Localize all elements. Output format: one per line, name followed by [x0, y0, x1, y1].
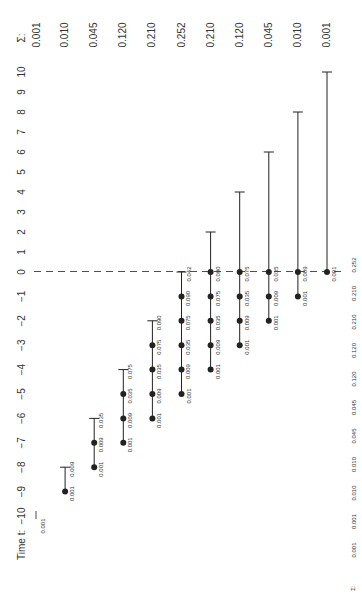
column-dot [179, 318, 185, 324]
probability-label: 0.001 [186, 388, 192, 404]
column-dot [266, 269, 272, 275]
sigma-top-value: 0.210 [146, 22, 157, 47]
column-dot [91, 464, 97, 470]
probability-label: 0.035 [186, 339, 192, 355]
column-dot [149, 391, 155, 397]
column-dot [266, 318, 272, 324]
probability-label: 0.035 [273, 266, 279, 282]
sigma-top-value: 0.252 [176, 22, 187, 47]
column-dot [179, 391, 185, 397]
sigma-bottom-value: 0.120 [351, 342, 357, 358]
probability-label: 0.035 [215, 315, 221, 331]
probability-label: 0.075 [215, 290, 221, 306]
probability-label: 0.001 [302, 290, 308, 306]
column-dot [237, 269, 243, 275]
time-axis-label: Time t: [16, 530, 27, 560]
probability-label: 0.001 [156, 412, 162, 428]
time-tick-label: −1 [16, 290, 27, 302]
time-tick-label: −8 [16, 461, 27, 473]
sigma-bottom-value: 0.001 [351, 513, 357, 529]
column-dot [208, 293, 214, 299]
time-tick-label: 4 [16, 189, 27, 195]
column-dot [295, 293, 301, 299]
probability-label: 0.075 [156, 339, 162, 355]
probability-label: 0.001 [69, 485, 75, 501]
sigma-bottom-value: 0.045 [351, 399, 357, 415]
sigma-bottom-value: 0.210 [351, 285, 357, 301]
sigma-top-value: 0.001 [321, 22, 332, 47]
time-tick-label: 1 [16, 249, 27, 255]
binomial-time-diagram: −10−9−8−7−6−5−4−3−2−1012345678910Time t:… [0, 0, 362, 598]
time-tick-label: 5 [16, 169, 27, 175]
time-tick-label: −9 [16, 485, 27, 497]
probability-label: 0.001 [215, 363, 221, 379]
sigma-top-value: 0.120 [117, 22, 128, 47]
probability-label: 0.090 [215, 266, 221, 282]
probability-label: 0.035 [244, 290, 250, 306]
time-tick-label: −10 [16, 507, 27, 524]
column-dot [120, 440, 126, 446]
time-tick-label: −5 [16, 388, 27, 400]
column-dot [120, 391, 126, 397]
probability-label: 0.009 [156, 388, 162, 404]
sigma-top-value: 0.120 [234, 22, 245, 47]
probability-label: 0.009 [127, 412, 133, 428]
column-dot [179, 293, 185, 299]
sigma-label-bottom: Σ: [350, 585, 356, 591]
time-tick-label: 7 [16, 129, 27, 135]
column-dot [179, 342, 185, 348]
sigma-bottom-value: 0.045 [351, 428, 357, 444]
probability-label: 0.035 [127, 388, 133, 404]
column-dot [324, 269, 330, 275]
sigma-top-value: 0.045 [88, 22, 99, 47]
probability-label: 0.001 [331, 266, 337, 282]
time-tick-label: −4 [16, 363, 27, 375]
time-tick-label: 3 [16, 209, 27, 215]
time-tick-label: −6 [16, 412, 27, 424]
probability-label: 0.009 [69, 461, 75, 477]
column-dot [295, 269, 301, 275]
probability-label: 0.075 [244, 266, 250, 282]
probability-label: 0.042 [186, 266, 192, 282]
probability-label: 0.009 [273, 290, 279, 306]
sigma-top-value: 0.010 [59, 22, 70, 47]
probability-label: 0.009 [98, 437, 104, 453]
time-tick-label: −2 [16, 315, 27, 327]
sigma-top-value: 0.010 [292, 22, 303, 47]
sigma-label-top: Σ: [16, 34, 27, 43]
probability-label: 0.009 [186, 363, 192, 379]
column-dot [149, 342, 155, 348]
column-dot [208, 342, 214, 348]
column-dot [237, 293, 243, 299]
probability-label: 0.090 [156, 315, 162, 331]
column-dot [120, 415, 126, 421]
sigma-top-value: 0.045 [263, 22, 274, 47]
column-dot [149, 367, 155, 373]
time-tick-label: −7 [16, 437, 27, 449]
probability-label: 0.035 [156, 363, 162, 379]
probability-label: 0.075 [186, 315, 192, 331]
probability-label: 0.001 [273, 315, 279, 331]
column-dot [208, 318, 214, 324]
probability-label: 0.001 [244, 339, 250, 355]
probability-label: 0.009 [244, 315, 250, 331]
sigma-bottom-value: 0.010 [351, 456, 357, 472]
sigma-bottom-value: 0.120 [351, 371, 357, 387]
column-dot [237, 342, 243, 348]
column-dot [208, 269, 214, 275]
diagram-canvas: −10−9−8−7−6−5−4−3−2−1012345678910Time t:… [0, 0, 362, 598]
time-tick-label: 9 [16, 89, 27, 95]
time-tick-label: 8 [16, 109, 27, 115]
column-dot [62, 489, 68, 495]
column-dot [266, 293, 272, 299]
probability-label: 0.009 [215, 339, 221, 355]
sigma-bottom-value: 0.210 [351, 314, 357, 330]
time-tick-label: 0 [16, 269, 27, 275]
probability-label: 0.001 [98, 461, 104, 477]
sigma-bottom-value: 0.001 [351, 542, 357, 558]
column-dot [149, 415, 155, 421]
probability-label: 0.090 [186, 290, 192, 306]
time-tick-label: 2 [16, 229, 27, 235]
time-tick-label: 10 [16, 66, 27, 78]
sigma-top-value: 0.210 [205, 22, 216, 47]
